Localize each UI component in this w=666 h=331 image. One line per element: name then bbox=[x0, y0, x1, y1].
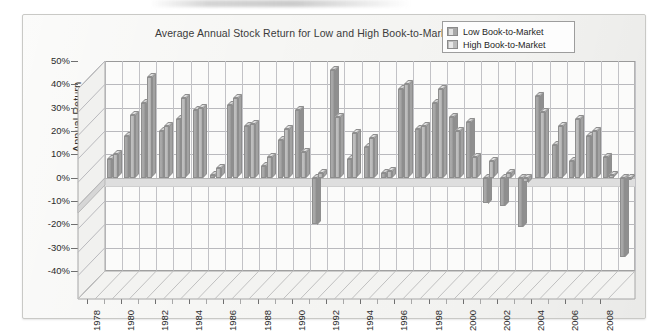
x-tick-label: 1990 bbox=[296, 310, 307, 331]
x-tick-label: 2006 bbox=[569, 310, 580, 331]
bar-front-face bbox=[540, 112, 545, 177]
bar-front-face bbox=[575, 119, 580, 177]
bar-high-1998 bbox=[455, 131, 460, 178]
y-tick-mark bbox=[71, 224, 78, 225]
y-tick-mark bbox=[71, 131, 78, 132]
bar-front-face bbox=[421, 126, 426, 177]
bar-front-face bbox=[432, 103, 437, 178]
bar-front-face bbox=[626, 178, 631, 180]
y-tick-mark bbox=[71, 108, 78, 109]
bar-low-2005 bbox=[569, 161, 574, 177]
y-tick-label: 20% bbox=[23, 125, 70, 136]
bar-low-2004 bbox=[552, 145, 557, 178]
bar-high-1990 bbox=[318, 173, 323, 178]
bar-front-face bbox=[130, 115, 135, 178]
bar-front-face bbox=[301, 152, 306, 178]
y-tick-label: -20% bbox=[23, 218, 70, 229]
bar-low-1988 bbox=[278, 140, 283, 177]
bar-low-1986 bbox=[244, 126, 249, 177]
bar-low-2007 bbox=[603, 157, 608, 178]
bar-front-face bbox=[518, 178, 523, 227]
bar-front-face bbox=[569, 161, 574, 177]
bar-high-1984 bbox=[216, 168, 221, 177]
scan-artifact bbox=[150, 0, 410, 7]
bar-low-1996 bbox=[415, 129, 420, 178]
bar-low-1991 bbox=[330, 70, 335, 177]
bar-low-1979 bbox=[124, 136, 129, 178]
bar-front-face bbox=[620, 178, 625, 257]
y-tick-label: 30% bbox=[23, 102, 70, 113]
bar-side-face bbox=[289, 125, 293, 178]
bar-low-1980 bbox=[141, 103, 146, 178]
bar-front-face bbox=[250, 124, 255, 178]
bar-high-2000 bbox=[489, 161, 494, 177]
plot-area bbox=[105, 61, 635, 271]
bar-low-1984 bbox=[210, 175, 215, 177]
bar-front-face bbox=[216, 168, 221, 177]
x-tick-label: 1984 bbox=[193, 310, 204, 331]
bar-side-face bbox=[443, 85, 447, 178]
legend-swatch-high bbox=[447, 40, 458, 49]
bar-side-face bbox=[118, 150, 122, 177]
bar-low-1998 bbox=[449, 117, 454, 178]
zero-plane-depth bbox=[78, 178, 109, 216]
legend-label-low: Low Book-to-Market bbox=[463, 27, 544, 37]
bar-side-face bbox=[505, 174, 509, 206]
bar-side-face bbox=[203, 104, 207, 178]
bar-front-face bbox=[141, 103, 146, 178]
legend-swatch-low bbox=[447, 27, 458, 36]
legend-item-low: Low Book-to-Market bbox=[447, 25, 570, 38]
x-tick-label: 1998 bbox=[433, 310, 444, 331]
bar-front-face bbox=[586, 136, 591, 178]
y-tick-mark bbox=[71, 84, 78, 85]
bar-front-face bbox=[387, 171, 392, 178]
bar-side-face bbox=[563, 122, 567, 177]
bar-front-face bbox=[506, 173, 511, 178]
x-tick-label: 2008 bbox=[604, 310, 615, 331]
y-tick-mark bbox=[71, 178, 78, 179]
y-tick-label: 10% bbox=[23, 148, 70, 159]
y-tick-label: -40% bbox=[23, 265, 70, 276]
bar-front-face bbox=[335, 117, 340, 178]
bar-front-face bbox=[523, 178, 528, 183]
y-tick-label: 50% bbox=[23, 55, 70, 66]
bar-high-1987 bbox=[267, 157, 272, 178]
bar-front-face bbox=[312, 178, 317, 225]
bar-front-face bbox=[535, 96, 540, 178]
bar-low-2002 bbox=[518, 178, 523, 227]
zero-plane bbox=[105, 178, 635, 187]
bar-side-face bbox=[426, 122, 430, 177]
bar-side-face bbox=[357, 129, 361, 177]
bar-front-face bbox=[159, 131, 164, 178]
bar-high-1992 bbox=[352, 133, 357, 177]
bar-low-1978 bbox=[107, 159, 112, 178]
bar-front-face bbox=[369, 138, 374, 178]
bar-high-1996 bbox=[421, 126, 426, 177]
bar-front-face bbox=[330, 70, 335, 177]
bar-low-1989 bbox=[295, 110, 300, 178]
bar-low-1982 bbox=[176, 119, 181, 177]
bar-front-face bbox=[164, 126, 169, 177]
bar-low-1981 bbox=[159, 131, 164, 178]
bar-front-face bbox=[107, 159, 112, 178]
bar-high-1986 bbox=[250, 124, 255, 178]
bar-high-1985 bbox=[233, 98, 238, 177]
bar-front-face bbox=[592, 131, 597, 178]
bar-front-face bbox=[198, 108, 203, 178]
bar-front-face bbox=[364, 147, 369, 177]
bar-low-2001 bbox=[500, 178, 505, 206]
bar-low-1985 bbox=[227, 105, 232, 177]
bar-front-face bbox=[261, 166, 266, 178]
bar-front-face bbox=[318, 173, 323, 178]
bar-low-1990 bbox=[312, 178, 317, 225]
bar-high-2001 bbox=[506, 173, 511, 178]
bar-side-face bbox=[135, 111, 139, 178]
bar-front-face bbox=[398, 89, 403, 178]
bar-front-face bbox=[603, 157, 608, 178]
y-tick-mark bbox=[71, 271, 78, 272]
y-tick-label: 40% bbox=[23, 78, 70, 89]
bar-high-2007 bbox=[609, 175, 614, 177]
bar-high-1994 bbox=[387, 171, 392, 178]
bar-high-1993 bbox=[369, 138, 374, 178]
bar-side-face bbox=[625, 174, 629, 257]
